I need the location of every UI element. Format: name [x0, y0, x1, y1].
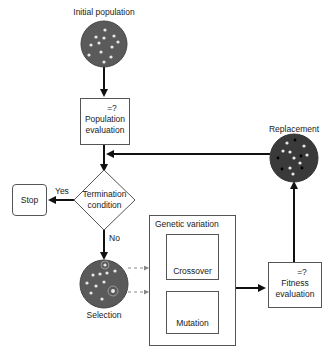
- eval-symbol: =?: [81, 103, 129, 114]
- termination-line1: Termination: [74, 189, 135, 200]
- stop-label: Stop: [21, 195, 39, 206]
- crossover-box: Crossover: [166, 234, 219, 280]
- eval-symbol: =?: [269, 267, 321, 278]
- termination-label: Termination condition: [74, 189, 135, 211]
- stop-box: Stop: [12, 184, 47, 216]
- population-evaluation-box: =? Population evaluation: [80, 98, 130, 145]
- population-evaluation-line1: Population: [81, 114, 129, 125]
- fitness-evaluation-line1: Fitness: [269, 278, 321, 289]
- mutation-label: Mutation: [167, 318, 218, 329]
- no-label: No: [109, 233, 120, 243]
- mutation-box: Mutation: [166, 291, 219, 334]
- fitness-evaluation-line2: evaluation: [269, 289, 321, 300]
- population-evaluation-line2: evaluation: [81, 125, 129, 136]
- termination-line2: condition: [74, 200, 135, 211]
- crossover-label: Crossover: [167, 266, 218, 277]
- fitness-evaluation-box: =? Fitness evaluation: [268, 262, 322, 308]
- replacement-label: Replacement: [254, 124, 332, 134]
- selection-label: Selection: [74, 310, 134, 320]
- yes-label: Yes: [55, 186, 69, 196]
- initial-population-circle: [81, 21, 127, 67]
- selection-circle: [80, 260, 128, 308]
- replacement-circle: [270, 134, 318, 182]
- initial-population-label: Initial population: [54, 7, 154, 17]
- genetic-variation-label: Genetic variation: [150, 219, 235, 230]
